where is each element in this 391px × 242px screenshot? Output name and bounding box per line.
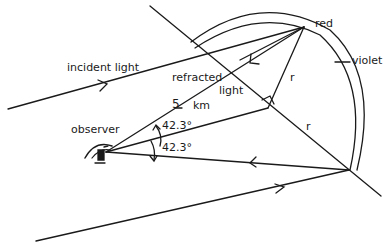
arrow-angle-lower bbox=[150, 156, 157, 161]
distance-number-label: 5 bbox=[172, 98, 180, 110]
angle-upper-label: 42.3° bbox=[162, 120, 192, 131]
incident-ray-lower bbox=[36, 170, 349, 241]
radius-lower-label: r bbox=[306, 121, 311, 132]
refracted-label: refracted bbox=[172, 72, 222, 83]
red-label: red bbox=[315, 18, 333, 29]
radius-upper bbox=[268, 27, 304, 108]
violet-label: violet bbox=[352, 55, 382, 66]
red-ray-2 bbox=[240, 27, 304, 60]
radius-upper-label: r bbox=[290, 72, 295, 83]
refracted-ray bbox=[106, 27, 304, 152]
diagram-lines bbox=[0, 0, 391, 242]
arrow-bottom bbox=[250, 157, 256, 167]
outer-arc bbox=[191, 13, 364, 170]
distance-unit-label: km bbox=[193, 100, 210, 111]
angle-lower-label: 42.3° bbox=[162, 142, 192, 153]
bottom-ray bbox=[106, 152, 349, 170]
rainbow-diagram: incident light refracted light 5 km obse… bbox=[0, 0, 391, 242]
light-label: light bbox=[219, 85, 243, 96]
eye-icon bbox=[85, 145, 112, 164]
incident-light-label: incident light bbox=[67, 62, 139, 73]
axis-line bbox=[150, 6, 381, 196]
observer-label: observer bbox=[71, 124, 120, 135]
